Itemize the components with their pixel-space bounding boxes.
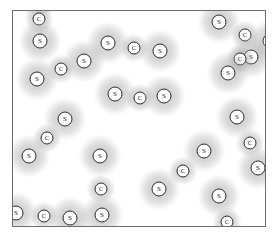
atom-label: C <box>99 186 103 193</box>
atom-label: S <box>27 153 31 160</box>
atom-nucleus: S <box>33 34 48 49</box>
atom-nucleus: S <box>108 87 123 102</box>
atom-label: S <box>106 40 110 47</box>
atom-nucleus: S <box>63 211 78 226</box>
atom-label: S <box>35 76 39 83</box>
atom-nucleus: S <box>101 36 116 51</box>
atom-label: S <box>158 48 162 55</box>
atom-label: S <box>217 19 221 26</box>
atom-label: S <box>202 148 206 155</box>
atom-nucleus: C <box>177 165 190 178</box>
atom-nucleus: S <box>251 161 266 176</box>
atom-nucleus: S <box>95 208 110 223</box>
atom-label: S <box>14 210 18 217</box>
atom-label: S <box>162 93 166 100</box>
diagram-canvas: SCSSCSSCSSCSSCSSCSSCSSCSSCSSCSSCSSCS <box>0 0 277 238</box>
atom-nucleus: S <box>197 144 212 159</box>
atom-nucleus: S <box>212 15 227 30</box>
atom-label: S <box>82 58 86 65</box>
atom-nucleus: S <box>58 112 73 127</box>
atom-nucleus: S <box>30 72 45 87</box>
atom-label: C <box>42 213 46 220</box>
atom-label: S <box>100 212 104 219</box>
atom-nucleus: S <box>153 44 168 59</box>
atom-label: C <box>225 219 229 226</box>
atom-label: S <box>226 70 230 77</box>
atom-label: S <box>217 193 221 200</box>
atom-label: C <box>132 45 136 52</box>
atom-label: S <box>98 153 102 160</box>
atom-nucleus: S <box>230 110 245 125</box>
atom-label: S <box>38 38 42 45</box>
atom-label: S <box>235 114 239 121</box>
atom-nucleus: S <box>93 149 108 164</box>
atom-label: S <box>68 215 72 222</box>
atom-label: C <box>59 66 63 73</box>
molecule-layer: SCSSCSSCSSCSSCSSCSSCSSCSSCSSCSSCSSCS <box>13 11 265 226</box>
atom-nucleus: S <box>221 66 236 81</box>
atom-nucleus: S <box>157 89 172 104</box>
atom-label: S <box>113 91 117 98</box>
atom-label: S <box>63 116 67 123</box>
atom-nucleus: S <box>152 182 167 197</box>
atom-label: C <box>248 140 252 147</box>
atom-nucleus: S <box>212 189 227 204</box>
atom-label: S <box>256 165 260 172</box>
atom-label: S <box>157 186 161 193</box>
atom-label: C <box>181 168 185 175</box>
atom-nucleus: S <box>22 149 37 164</box>
